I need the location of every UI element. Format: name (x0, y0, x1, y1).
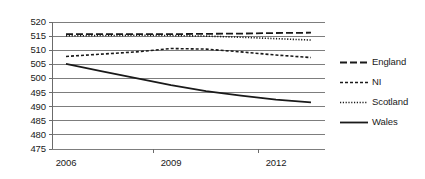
legend-label-england: England (372, 56, 406, 67)
y-tick-label-500: 500 (16, 73, 46, 83)
legend-swatch-wales (340, 121, 368, 123)
y-tick-label-505: 505 (16, 59, 46, 69)
legend-swatch-england (340, 61, 368, 63)
legend-item-scotland[interactable]: Scotland (340, 96, 425, 108)
y-tick-label-485: 485 (16, 116, 46, 126)
x-tick-label-2006: 2006 (46, 158, 86, 168)
chart-canvas (0, 0, 425, 179)
legend-label-wales: Wales (372, 116, 398, 127)
x-tick-label-2009: 2009 (151, 158, 191, 168)
y-tick-label-490: 490 (16, 102, 46, 112)
y-tick-label-480: 480 (16, 130, 46, 140)
series-line-wales (66, 64, 311, 103)
legend-label-scotland: Scotland (372, 96, 408, 107)
legend-item-wales[interactable]: Wales (340, 116, 425, 128)
y-tick-label-495: 495 (16, 88, 46, 98)
line-chart: 475480485490495500505510515520 200620092… (0, 0, 425, 179)
legend-item-ni[interactable]: NI (340, 76, 425, 88)
x-tick-label-2012: 2012 (256, 158, 296, 168)
legend-label-ni: NI (372, 76, 381, 87)
legend-swatch-ni (340, 81, 368, 83)
legend-item-england[interactable]: England (340, 56, 425, 68)
y-tick-label-520: 520 (16, 17, 46, 27)
y-tick-label-515: 515 (16, 31, 46, 41)
legend-swatch-scotland (340, 101, 368, 103)
y-tick-label-475: 475 (16, 144, 46, 154)
y-tick-label-510: 510 (16, 45, 46, 55)
series-line-england (66, 33, 311, 34)
